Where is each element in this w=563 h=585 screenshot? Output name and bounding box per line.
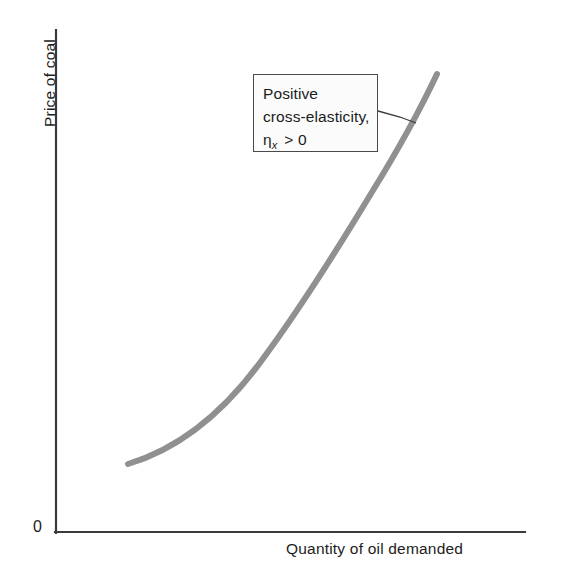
callout-line-1: Positive <box>263 82 377 105</box>
y-axis-label: Price of coal <box>41 13 59 153</box>
origin-label: 0 <box>33 518 42 536</box>
x-axis-label: Quantity of oil demanded <box>286 540 463 558</box>
eta-symbol: η <box>263 131 272 148</box>
callout-line-2: cross-elasticity, <box>263 105 377 128</box>
annotation-leader-line <box>378 111 416 123</box>
callout-line-3: ηx> 0 <box>263 128 377 157</box>
cross-elasticity-chart-figure: Price of coal Quantity of oil demanded 0… <box>0 0 563 585</box>
positive-cross-elasticity-callout: Positive cross-elasticity, ηx> 0 <box>253 74 378 152</box>
eta-comparison: > 0 <box>284 131 306 148</box>
eta-subscript: x <box>272 139 278 151</box>
